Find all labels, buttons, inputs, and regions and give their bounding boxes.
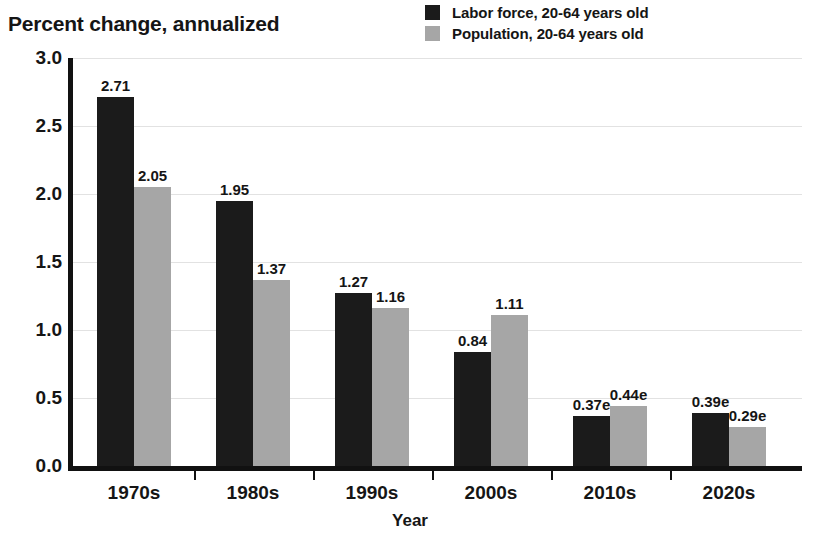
bar-value-label: 1.95 [220, 181, 249, 198]
x-axis-category-1980s: 1980s [227, 482, 280, 504]
y-axis-tick-label: 0.5 [2, 387, 62, 409]
plot-area: 2.712.051.951.371.271.160.841.110.37e0.4… [68, 58, 802, 466]
y-axis-tick-label: 0.0 [2, 455, 62, 477]
legend-item-population: Population, 20-64 years old [425, 25, 648, 42]
bar-value-label: 1.27 [339, 273, 368, 290]
legend-label-population: Population, 20-64 years old [452, 25, 644, 42]
gridline [73, 194, 802, 195]
bar-2020s-population [729, 427, 766, 466]
bar-2010s-population [610, 406, 647, 466]
chart-legend: Labor force, 20-64 years old Population,… [425, 4, 648, 42]
x-axis-category-2020s: 2020s [703, 482, 756, 504]
y-axis-line [68, 58, 73, 466]
gridline [73, 126, 802, 127]
legend-swatch-labor-force [425, 5, 440, 20]
x-axis-line [68, 466, 802, 471]
y-axis-tick-label: 1.0 [2, 319, 62, 341]
bar-1990s-labor-force [335, 293, 372, 466]
bar-2000s-population [491, 315, 528, 466]
bar-value-label: 1.16 [376, 288, 405, 305]
bar-value-label: 0.29e [729, 407, 767, 424]
y-axis-tick-label: 2.5 [2, 115, 62, 137]
bar-1970s-population [134, 187, 171, 466]
x-axis-category-2000s: 2000s [465, 482, 518, 504]
y-axis-tick-label: 1.5 [2, 251, 62, 273]
x-axis-category-2010s: 2010s [584, 482, 637, 504]
x-axis-category-1990s: 1990s [346, 482, 399, 504]
bar-2010s-labor-force [573, 416, 610, 466]
x-axis-tick [432, 471, 434, 480]
gridline [73, 262, 802, 263]
y-axis-tick-labels: 0.00.51.01.52.02.53.0 [0, 58, 62, 466]
bar-value-label: 1.37 [257, 260, 286, 277]
x-axis-tick [670, 471, 672, 480]
bar-value-label: 0.39e [692, 393, 730, 410]
bar-1980s-labor-force [216, 201, 253, 466]
y-axis-tick-label: 3.0 [2, 47, 62, 69]
bar-2000s-labor-force [454, 352, 491, 466]
legend-item-labor-force: Labor force, 20-64 years old [425, 4, 648, 21]
gridline [73, 330, 802, 331]
gridline [73, 58, 802, 59]
legend-label-labor-force: Labor force, 20-64 years old [452, 4, 648, 21]
bar-value-label: 2.71 [101, 77, 130, 94]
y-axis-tick-label: 2.0 [2, 183, 62, 205]
bar-2020s-labor-force [692, 413, 729, 466]
bar-value-label: 1.11 [495, 295, 523, 312]
bar-value-label: 0.84 [458, 332, 487, 349]
bar-1990s-population [372, 308, 409, 466]
bar-1980s-population [253, 280, 290, 466]
x-axis-title: Year [0, 511, 820, 531]
x-axis-tick [313, 471, 315, 480]
bar-value-label: 0.44e [610, 386, 648, 403]
x-axis-category-1970s: 1970s [108, 482, 161, 504]
bar-value-label: 2.05 [138, 167, 167, 184]
bar-value-label: 0.37e [573, 396, 611, 413]
chart-title: Percent change, annualized [8, 12, 279, 36]
bar-1970s-labor-force [97, 97, 134, 466]
bar-chart: Percent change, annualized Labor force, … [0, 0, 820, 544]
x-axis-tick [194, 471, 196, 480]
legend-swatch-population [425, 26, 440, 41]
x-axis-tick [551, 471, 553, 480]
